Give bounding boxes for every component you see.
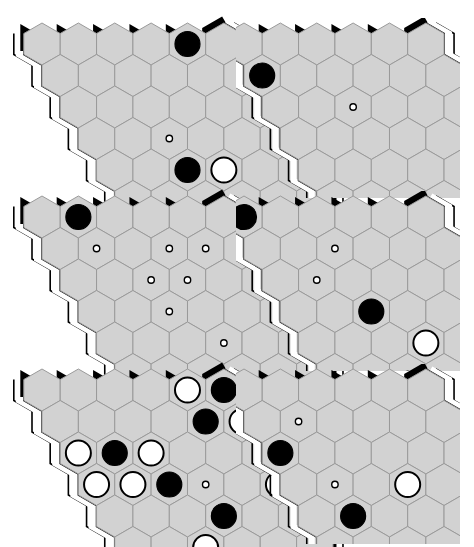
hex-cell[interactable] [462, 527, 474, 547]
hex-cell[interactable] [462, 354, 474, 396]
white-stone[interactable] [413, 331, 438, 356]
black-stone[interactable] [175, 158, 200, 183]
black-stone[interactable] [359, 299, 384, 324]
hex-cell[interactable] [462, 291, 474, 333]
white-stone[interactable] [211, 158, 236, 183]
small-circle-marker[interactable] [350, 104, 356, 110]
small-circle-marker[interactable] [332, 481, 338, 487]
small-circle-marker[interactable] [166, 308, 172, 314]
small-circle-marker[interactable] [166, 135, 172, 141]
hex-board[interactable] [210, 364, 460, 544]
black-stone[interactable] [250, 63, 275, 88]
black-stone[interactable] [268, 441, 293, 466]
hex-cell[interactable] [462, 118, 474, 160]
small-circle-marker[interactable] [166, 245, 172, 251]
small-circle-marker[interactable] [314, 277, 320, 283]
small-circle-marker[interactable] [202, 481, 208, 487]
white-stone[interactable] [84, 472, 109, 497]
small-circle-marker[interactable] [148, 277, 154, 283]
hex-board[interactable] [210, 18, 460, 198]
black-stone[interactable] [341, 504, 366, 529]
small-circle-marker[interactable] [202, 245, 208, 251]
black-stone[interactable] [102, 441, 127, 466]
hex-cell[interactable] [462, 181, 474, 223]
black-stone[interactable] [66, 205, 91, 230]
white-stone[interactable] [120, 472, 145, 497]
white-stone[interactable] [139, 441, 164, 466]
black-stone[interactable] [211, 378, 236, 403]
small-circle-marker[interactable] [184, 277, 190, 283]
white-stone[interactable] [395, 472, 420, 497]
hex-board[interactable] [8, 191, 258, 371]
small-circle-marker[interactable] [93, 245, 99, 251]
black-stone[interactable] [175, 32, 200, 57]
hex-board[interactable] [8, 364, 258, 544]
black-stone[interactable] [157, 472, 182, 497]
small-circle-marker[interactable] [221, 340, 227, 346]
black-stone[interactable] [211, 504, 236, 529]
hex-board-figure [0, 0, 474, 547]
small-circle-marker[interactable] [295, 418, 301, 424]
hex-cell[interactable] [462, 464, 474, 506]
small-circle-marker[interactable] [332, 245, 338, 251]
white-stone[interactable] [66, 441, 91, 466]
hex-board[interactable] [210, 191, 460, 371]
hex-board[interactable] [8, 18, 258, 198]
black-stone[interactable] [193, 409, 218, 434]
white-stone[interactable] [175, 378, 200, 403]
